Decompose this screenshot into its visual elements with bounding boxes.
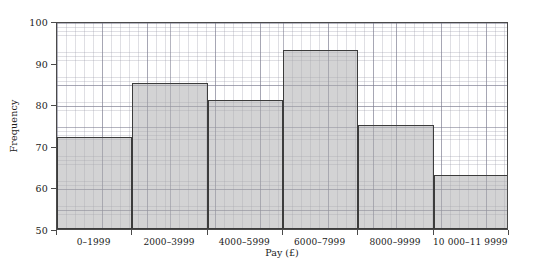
y-axis-tick-label: 100 xyxy=(29,17,48,28)
x-axis-tick-label: 4000–5999 xyxy=(219,237,270,247)
bar xyxy=(358,125,433,229)
x-axis-tick-mark xyxy=(56,230,57,235)
x-axis-tick-mark xyxy=(131,230,132,235)
y-axis-tick-label: 90 xyxy=(36,58,49,69)
x-axis-tick-label: 6000–7999 xyxy=(294,237,345,247)
x-axis-tick-label: 0–1999 xyxy=(77,237,111,247)
x-axis-tick-mark xyxy=(282,230,283,235)
x-axis-title: Pay (£) xyxy=(265,247,298,258)
x-axis-tick-mark xyxy=(357,230,358,235)
bar xyxy=(283,50,358,229)
x-axis-tick-mark xyxy=(207,230,208,235)
y-axis-title: Frequency xyxy=(8,99,19,152)
x-axis-tick-mark xyxy=(508,230,509,235)
x-axis-tick-label: 2000–3999 xyxy=(143,237,194,247)
y-axis-tick-label: 80 xyxy=(36,100,49,111)
y-axis-tick-label: 60 xyxy=(36,183,49,194)
bar xyxy=(132,83,207,229)
bar xyxy=(434,175,508,229)
x-axis-tick-label: 10 000–11 9999 xyxy=(433,237,508,247)
x-axis-tick-mark xyxy=(433,230,434,235)
bar-series xyxy=(57,23,507,229)
bar xyxy=(208,100,283,229)
y-axis-tick-label: 70 xyxy=(36,141,49,152)
histogram-figure: 5060708090100 Frequency 0–19992000–39994… xyxy=(0,0,547,268)
x-axis-tick-label: 8000–9999 xyxy=(369,237,420,247)
bar xyxy=(57,137,132,229)
y-axis-tick-label: 50 xyxy=(36,225,49,236)
plot-area xyxy=(56,22,508,230)
